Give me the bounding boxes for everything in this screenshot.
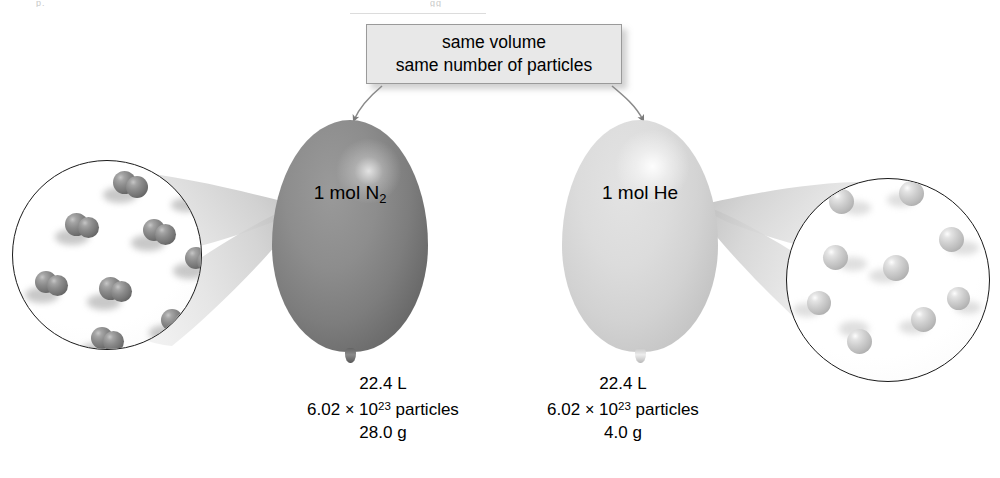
nitrogen-label-subscript: 2 (379, 191, 386, 206)
nitrogen-magnifier (12, 160, 202, 350)
nitrogen-volume: 22.4 L (268, 372, 498, 395)
callout-box: same volume same number of particles (366, 24, 622, 84)
helium-balloon-body (562, 120, 718, 352)
callout-line-2: same number of particles (396, 54, 592, 77)
page-remnant-right: gg (430, 0, 442, 7)
callout-line-1: same volume (442, 31, 546, 54)
nitrogen-caption: 22.4 L 6.02 × 1023 particles 28.0 g (268, 372, 498, 444)
helium-particles: 6.02 × 1023 particles (508, 395, 738, 421)
nitrogen-balloon-label: 1 mol N2 (272, 182, 428, 206)
nitrogen-label-text: 1 mol N (314, 182, 379, 203)
helium-caption: 22.4 L 6.02 × 1023 particles 4.0 g (508, 372, 738, 444)
multiplication-sign: × (585, 400, 594, 418)
helium-exponent: 23 (618, 400, 631, 412)
helium-label-text: 1 mol He (602, 182, 678, 203)
arrow-left-path (354, 86, 382, 120)
nitrogen-particles: 6.02 × 1023 particles (268, 395, 498, 421)
arrow-right-path (612, 86, 643, 120)
nitrogen-mass: 28.0 g (268, 421, 498, 444)
mole-comparison-figure: p. gg same volume same number of particl… (0, 0, 1000, 478)
helium-balloon-knot (635, 348, 646, 363)
helium-volume: 22.4 L (508, 372, 738, 395)
nitrogen-exponent: 23 (378, 400, 391, 412)
helium-balloon-label: 1 mol He (562, 182, 718, 204)
multiplication-sign: × (345, 400, 354, 418)
helium-balloon (562, 120, 718, 352)
nitrogen-balloon-knot (345, 348, 356, 363)
page-remnant-left: p. (36, 0, 46, 7)
nitrogen-balloon (272, 120, 428, 352)
page-rule-remnant (350, 13, 486, 14)
helium-mass: 4.0 g (508, 421, 738, 444)
helium-magnifier (786, 178, 990, 382)
nitrogen-balloon-body (272, 120, 428, 352)
